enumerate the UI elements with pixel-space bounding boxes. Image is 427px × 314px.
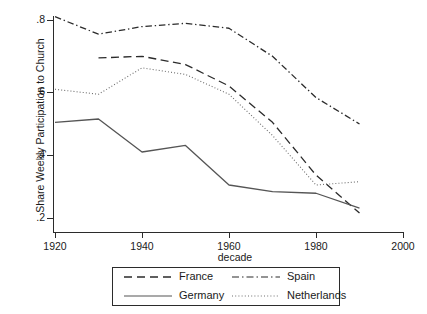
legend-item-netherlands: Netherlands bbox=[227, 287, 341, 304]
legend-label: Germany bbox=[179, 288, 224, 303]
series-line-germany bbox=[55, 119, 360, 208]
legend-label: Spain bbox=[287, 269, 315, 284]
legend-label: Netherlands bbox=[287, 288, 346, 303]
series-line-spain bbox=[55, 17, 360, 124]
legend-item-france: France bbox=[113, 268, 225, 285]
legend-key-dotted bbox=[231, 287, 281, 304]
legend-key-solid bbox=[123, 287, 173, 304]
legend-key-dashed bbox=[123, 268, 173, 285]
data-lines bbox=[0, 0, 427, 258]
legend-key-dash-dot bbox=[231, 268, 281, 285]
legend-label: France bbox=[179, 269, 213, 284]
legend-item-germany: Germany bbox=[113, 287, 225, 304]
plot-area: .8 .6 .4 .2 1920 1940 1960 1980 2000 Sha… bbox=[0, 0, 427, 258]
chart-figure: .8 .6 .4 .2 1920 1940 1960 1980 2000 Sha… bbox=[0, 0, 427, 314]
chart-legend: France Spain Germany Netherlands bbox=[112, 267, 340, 306]
series-line-netherlands bbox=[55, 68, 360, 185]
series-line-france bbox=[99, 56, 360, 213]
legend-item-spain: Spain bbox=[227, 268, 341, 285]
